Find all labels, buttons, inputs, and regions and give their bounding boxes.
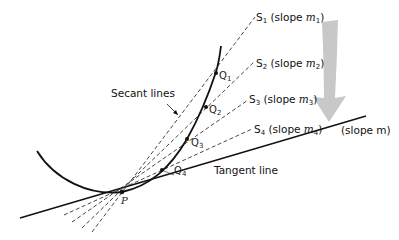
q3-label: Q3 [191, 137, 203, 150]
secant-label-s3: S3 (slope m3) [249, 94, 317, 107]
secant-line-s1 [92, 17, 255, 232]
q2-label: Q2 [209, 104, 221, 117]
secant-label-s2: S2 (slope m2) [256, 58, 324, 71]
secant-line-s3 [72, 100, 248, 222]
p-label: P [121, 195, 128, 206]
point-q3 [185, 137, 189, 141]
point-p [120, 190, 124, 194]
function-curve [37, 46, 221, 193]
point-q2 [204, 105, 208, 109]
q4-label: Q4 [174, 165, 186, 178]
secant-lines-label: Secant lines [111, 88, 175, 99]
tangent-line-label: Tangent line [214, 165, 278, 176]
direction-arrow-icon [313, 20, 346, 122]
secant-label-s1: S1 (slope m1) [256, 12, 324, 25]
secant-label-s4: S4 (slope m4) [254, 124, 322, 137]
point-q1 [214, 71, 218, 75]
tangent-slope-label: (slope m) [341, 125, 391, 136]
q1-label: Q1 [219, 70, 231, 83]
diagram-canvas [0, 0, 399, 240]
point-q4 [160, 168, 164, 172]
